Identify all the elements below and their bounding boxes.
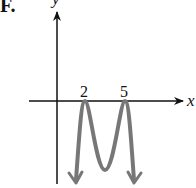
tick-label-2: 2 bbox=[80, 84, 88, 100]
figure-label: F. bbox=[0, 0, 15, 15]
tick-label-5: 5 bbox=[120, 84, 128, 100]
polynomial-curve bbox=[76, 101, 134, 180]
graph-canvas bbox=[0, 0, 196, 188]
y-axis-label: y bbox=[52, 0, 60, 7]
x-axis-label: x bbox=[187, 92, 195, 109]
